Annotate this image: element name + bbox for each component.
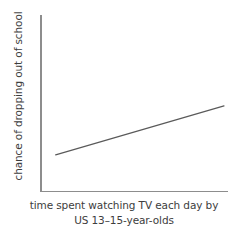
x-axis-label-line-1: time spent watching TV each day by [20,198,228,213]
y-axis-label-text: chance of dropping out of school [12,11,24,180]
x-axis-label-line-2: US 13–15-year-olds [20,213,228,228]
chart-figure: chance of dropping out of school time sp… [0,0,239,239]
x-axis-line [40,191,228,193]
y-axis-label: chance of dropping out of school [0,0,36,192]
trend-line [56,106,224,155]
x-axis-label: time spent watching TV each day by US 13… [20,198,228,227]
y-axis-line [40,15,42,192]
